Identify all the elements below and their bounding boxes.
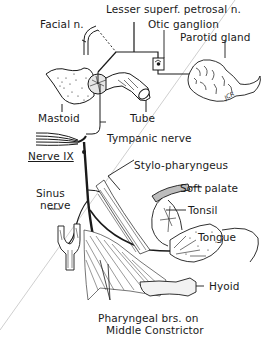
label-mastoid: Mastoid xyxy=(38,113,80,124)
eustachian-tube xyxy=(106,73,151,112)
label-pharyngeal-branches-line2: Middle Constrictor xyxy=(106,325,204,336)
label-sinus: Sinus xyxy=(36,188,65,199)
label-tonsil: Tonsil xyxy=(188,205,218,216)
nerve-ix-roots xyxy=(36,133,86,145)
label-nerve-ix: Nerve IX xyxy=(28,151,74,162)
label-tube: Tube xyxy=(130,113,155,124)
label-parotid-gland: Parotid gland xyxy=(180,32,250,43)
nerve-ix-diagram: JCR xyxy=(0,0,267,340)
parotid-gland: JCR xyxy=(188,40,260,102)
tongue xyxy=(170,224,258,262)
label-stylo-pharyngeus: Stylo-pharyngeus xyxy=(134,160,228,171)
facial-nerve xyxy=(82,26,98,55)
carotid-sinus xyxy=(58,224,80,270)
dashed-connection xyxy=(98,30,116,52)
label-otic-ganglion: Otic ganglion xyxy=(148,19,219,30)
label-facial-nerve: Facial n. xyxy=(40,19,84,30)
label-sinus-nerve: nerve xyxy=(40,200,71,211)
label-lesser-superficial-petrosal-nerve: Lesser superf. petrosal n. xyxy=(106,4,241,15)
label-hyoid: Hyoid xyxy=(209,281,240,292)
label-pharyngeal-branches-line1: Pharyngeal brs. on xyxy=(98,313,198,324)
label-soft-palate: Soft palate xyxy=(180,183,238,194)
label-tongue: Tongue xyxy=(198,232,236,243)
mastoid xyxy=(46,68,94,112)
label-tympanic-nerve: Tympanic nerve xyxy=(107,133,192,144)
